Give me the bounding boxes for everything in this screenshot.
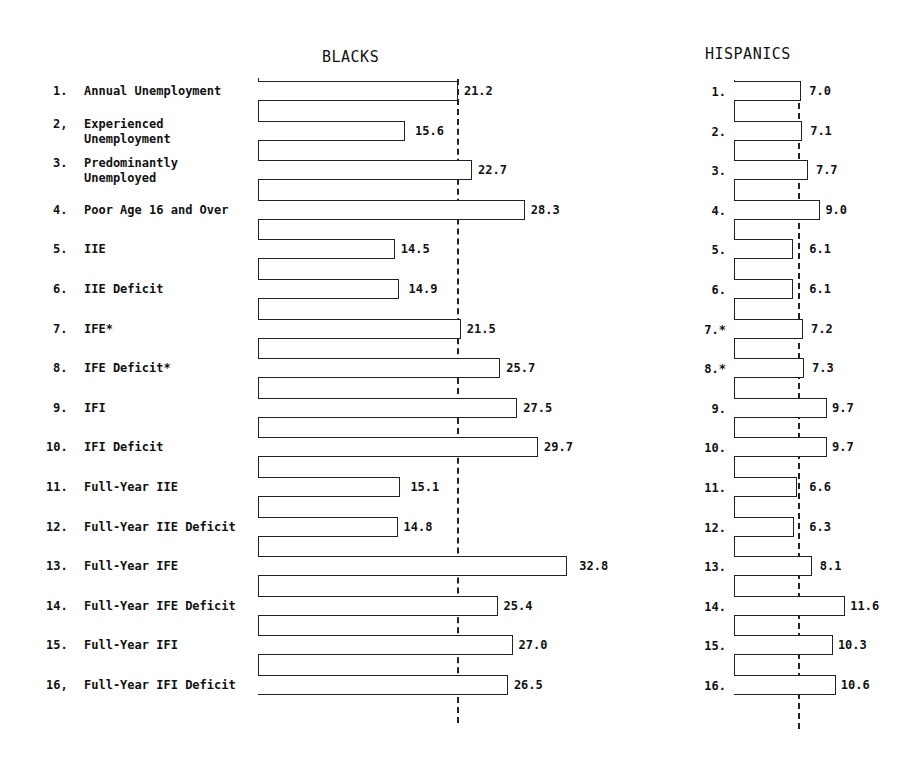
hispanics-bar [734,239,793,259]
blacks-value-label: 14.5 [401,242,430,256]
hispanics-row-number: 15. [692,639,726,653]
blacks-row-number: 14. [46,599,68,613]
blacks-value-label: 27.0 [519,638,548,652]
blacks-bar [258,160,472,180]
blacks-value-label: 14.9 [409,282,438,296]
hispanics-row-number: 7.* [692,323,726,337]
hispanics-row-number: 2. [692,125,726,139]
hispanics-bar [734,675,836,695]
blacks-bar [258,121,405,141]
hispanics-row-number: 1. [692,85,726,99]
blacks-bar [258,477,400,497]
blacks-bar [258,358,500,378]
blacks-value-label: 27.5 [523,401,552,415]
hispanics-bar [734,358,804,378]
blacks-row-label: IFI [84,401,106,416]
hispanics-bar [734,635,833,655]
blacks-bar [258,319,461,339]
hispanics-bar [734,477,797,497]
hispanics-row-number: 12. [692,521,726,535]
hispanics-title: HISPANICS [705,45,791,63]
blacks-row-label: Predominantly [84,156,178,171]
blacks-value-label: 22.7 [478,163,507,177]
blacks-bar [258,239,395,259]
hispanics-value-label: 6.6 [809,480,831,494]
hispanics-row-number: 3. [692,164,726,178]
hispanics-value-label: 7.7 [816,163,838,177]
hispanics-row-number: 5. [692,243,726,257]
hispanics-row-number: 10. [692,441,726,455]
blacks-row-number: 1. [53,84,67,98]
hispanics-row-number: 4. [692,204,726,218]
hispanics-value-label: 7.1 [810,124,832,138]
blacks-value-label: 14.8 [404,520,433,534]
hispanics-bar [734,517,794,537]
blacks-row-number: 15. [46,638,68,652]
hispanics-value-label: 7.3 [812,361,834,375]
hispanics-row-number: 16. [692,679,726,693]
blacks-row-number: 7. [53,322,67,336]
blacks-bar [258,81,458,101]
blacks-row-label: Full-Year IFE Deficit [84,599,236,614]
blacks-value-label: 32.8 [579,559,608,573]
hispanics-bar [734,437,827,457]
blacks-bar [258,596,498,616]
hispanics-row-number: 8.* [692,362,726,376]
blacks-row-number: 13. [46,559,68,573]
blacks-row-number: 3. [53,156,67,170]
hispanics-row-number: 14. [692,600,726,614]
hispanics-bar [734,279,793,299]
hispanics-row-number: 13. [692,560,726,574]
hispanics-bar [734,200,820,220]
blacks-row-label: IFE* [84,322,113,337]
blacks-row-label: Full-Year IFE [84,559,178,574]
blacks-row-number: 2, [53,117,67,131]
blacks-value-label: 28.3 [531,203,560,217]
hispanics-value-label: 6.1 [809,242,831,256]
hispanics-value-label: 6.3 [809,520,831,534]
hispanics-value-label: 8.1 [820,559,842,573]
blacks-row-number: 8. [53,361,67,375]
blacks-row-label: IIE Deficit [84,282,163,297]
hispanics-row-number: 6. [692,283,726,297]
hispanics-value-label: 9.7 [832,401,854,415]
hispanics-value-label: 6.1 [809,282,831,296]
blacks-row-label: Full-Year IFI Deficit [84,678,236,693]
blacks-value-label: 29.7 [544,440,573,454]
blacks-value-label: 21.5 [467,322,496,336]
hispanics-bar [734,81,801,101]
blacks-row-label: IIE [84,242,106,257]
hispanics-row-number: 9. [692,402,726,416]
hispanics-value-label: 10.3 [838,638,867,652]
blacks-row-number: 5. [53,242,67,256]
hispanics-value-label: 9.7 [832,440,854,454]
blacks-row-number: 4. [53,203,67,217]
blacks-value-label: 15.6 [415,124,444,138]
blacks-row-number: 12. [46,520,68,534]
blacks-row-label: Full-Year IIE Deficit [84,520,236,535]
hispanics-row-number: 11. [692,481,726,495]
blacks-row-number: 10. [46,440,68,454]
blacks-bar [258,200,525,220]
blacks-bar [258,675,508,695]
blacks-value-label: 26.5 [514,678,543,692]
blacks-row-label: Full-Year IFI [84,638,178,653]
blacks-bar [258,398,517,418]
hispanics-bar [734,596,845,616]
blacks-value-label: 21.2 [464,84,493,98]
blacks-bar [258,279,399,299]
hispanics-value-label: 9.0 [825,203,847,217]
blacks-row-label: Full-Year IIE [84,480,178,495]
blacks-row-number: 11. [46,480,68,494]
hispanics-bar [734,121,802,141]
blacks-row-label: IFE Deficit* [84,361,171,376]
hispanics-value-label: 10.6 [841,678,870,692]
blacks-value-label: 25.4 [504,599,533,613]
hispanics-value-label: 11.6 [850,599,879,613]
hispanics-bar [734,160,808,180]
blacks-row-number: 16, [46,678,68,692]
blacks-row-label: Poor Age 16 and Over [84,203,229,218]
blacks-value-label: 15.1 [410,480,439,494]
hispanics-bar [734,556,812,576]
blacks-bar [258,635,513,655]
